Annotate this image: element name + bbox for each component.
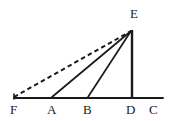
vertex-label-b: B <box>83 103 92 116</box>
vertex-label-f: F <box>10 103 17 116</box>
dashed-segment-fe <box>14 31 131 97</box>
vertex-label-a: A <box>47 103 56 116</box>
segment-be <box>88 31 131 97</box>
vertex-label-c: C <box>149 103 158 116</box>
segment-ae <box>52 31 131 97</box>
vertex-label-d: D <box>126 103 135 116</box>
vertex-label-e: E <box>130 7 138 20</box>
geometry-diagram: F A B D C E <box>0 0 169 121</box>
